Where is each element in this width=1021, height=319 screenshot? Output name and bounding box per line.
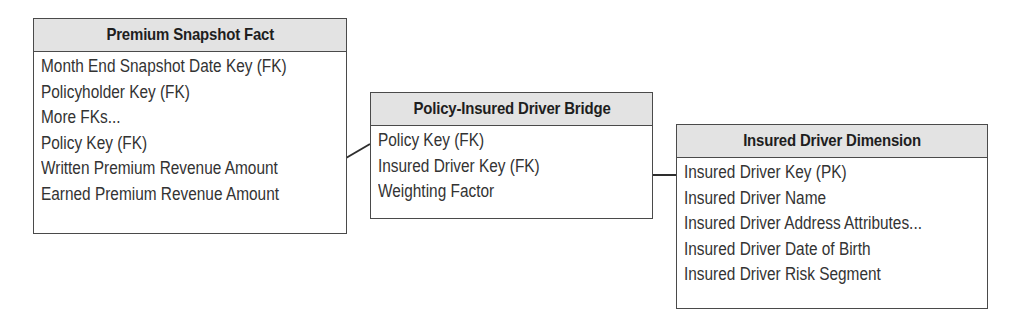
table-title: Premium Snapshot Fact xyxy=(34,19,346,52)
table-field: Insured Driver Key (FK) xyxy=(378,154,652,180)
table-field: Insured Driver Name xyxy=(684,186,987,212)
table-fields: Month End Snapshot Date Key (FK) Policyh… xyxy=(34,52,346,208)
table-field: Insured Driver Risk Segment xyxy=(684,262,987,288)
table-field: Policy Key (FK) xyxy=(41,131,346,157)
table-field: Month End Snapshot Date Key (FK) xyxy=(41,54,346,80)
table-fields: Policy Key (FK) Insured Driver Key (FK) … xyxy=(371,126,652,205)
table-field: Policy Key (FK) xyxy=(378,128,652,154)
table-field: Written Premium Revenue Amount xyxy=(41,156,346,182)
connector-fact-to-bridge xyxy=(346,144,370,158)
insured-driver-dimension-table[interactable]: Insured Driver Dimension Insured Driver … xyxy=(676,124,988,309)
table-field: More FKs... xyxy=(41,105,346,131)
table-fields: Insured Driver Key (PK) Insured Driver N… xyxy=(677,158,987,288)
table-field: Insured Driver Key (PK) xyxy=(684,160,987,186)
table-field: Weighting Factor xyxy=(378,179,652,205)
table-field: Policyholder Key (FK) xyxy=(41,80,346,106)
policy-insured-driver-bridge-table[interactable]: Policy-Insured Driver Bridge Policy Key … xyxy=(370,92,653,219)
table-field: Insured Driver Address Attributes... xyxy=(684,211,987,237)
premium-snapshot-fact-table[interactable]: Premium Snapshot Fact Month End Snapshot… xyxy=(33,18,347,234)
table-field: Insured Driver Date of Birth xyxy=(684,237,987,263)
table-title: Policy-Insured Driver Bridge xyxy=(371,93,652,126)
table-field: Earned Premium Revenue Amount xyxy=(41,182,346,208)
table-title: Insured Driver Dimension xyxy=(677,125,987,158)
